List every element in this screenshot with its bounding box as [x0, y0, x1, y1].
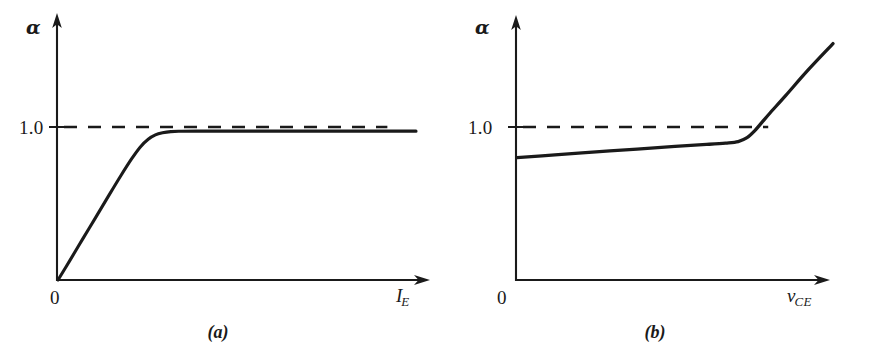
- panel-b-caption: (b): [437, 322, 873, 343]
- panel-b-x-axis-label: vCE: [787, 286, 813, 305]
- panel-b-y-axis-label: α: [475, 18, 490, 37]
- panel-b: α 1.0 0 vCE (b): [437, 0, 873, 355]
- panel-b-x-axis-subscript: CE: [794, 294, 811, 309]
- panel-a-y-axis: [52, 13, 62, 281]
- panel-a-x-axis-subscript: E: [401, 294, 409, 309]
- panel-a-plot: [0, 0, 436, 320]
- panel-a-caption: (a): [0, 322, 436, 343]
- panel-a: α 1.0 0 IE (a): [0, 0, 436, 355]
- panel-a-x-axis-label: IE: [396, 286, 411, 305]
- panel-a-curve: [58, 131, 416, 280]
- panel-b-plot: [437, 0, 873, 320]
- panel-b-y-axis: [511, 15, 521, 281]
- panel-a-x-axis: [56, 275, 430, 285]
- panel-b-origin-label: 0: [497, 288, 507, 307]
- figure-container: α 1.0 0 IE (a) α 1.0 0: [0, 0, 873, 355]
- panel-a-y-tick-label: 1.0: [19, 118, 43, 137]
- panel-a-y-axis-label: α: [26, 18, 41, 37]
- panel-b-x-axis: [515, 275, 830, 285]
- panel-b-curve: [517, 44, 833, 158]
- panel-a-origin-label: 0: [50, 288, 60, 307]
- panel-b-y-tick-label: 1.0: [468, 118, 492, 137]
